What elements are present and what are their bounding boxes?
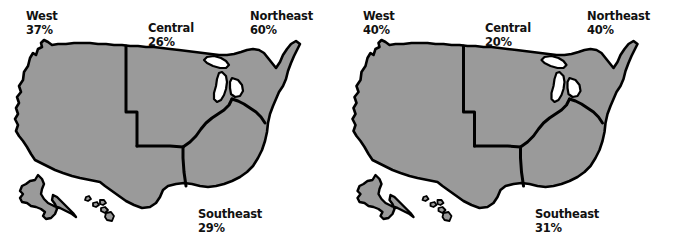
right-map-label-northeast-value: 40% <box>587 24 650 38</box>
left-map-label-central-region: Central <box>148 21 194 35</box>
right-map-label-northeast-region: Northeast <box>587 9 650 23</box>
right-map-label-central: Central 20% <box>485 22 531 49</box>
hawaii-island-5 <box>105 212 114 221</box>
left-map-label-northeast: Northeast 60% <box>250 10 313 37</box>
usa-mainland-shape <box>353 40 638 208</box>
left-map-panel: West 37% Central 26% Northeast 60% South… <box>0 0 337 244</box>
right-map-label-west-region: West <box>363 9 395 23</box>
hawaii-island-1 <box>423 196 429 201</box>
right-map-label-central-region: Central <box>485 21 531 35</box>
usa-mainland-group <box>15 40 300 208</box>
hawaii-island-3 <box>100 200 106 205</box>
hawaii-inset-group <box>423 196 452 221</box>
right-map-label-west-value: 40% <box>363 24 395 38</box>
left-map-label-west: West 37% <box>26 10 58 37</box>
left-map-label-west-value: 37% <box>26 24 58 38</box>
left-map-label-southeast-region: Southeast <box>198 207 262 221</box>
hawaii-island-1 <box>85 196 91 201</box>
right-map-panel: West 40% Central 20% Northeast 40% South… <box>337 0 675 244</box>
hawaii-island-5 <box>443 212 452 221</box>
hawaii-island-2 <box>431 202 437 207</box>
hawaii-inset-group <box>85 196 114 221</box>
two-map-comparison-figure: West 37% Central 26% Northeast 60% South… <box>0 0 675 244</box>
alaska-inset-group <box>20 175 76 219</box>
right-map-label-west: West 40% <box>363 10 395 37</box>
left-map-label-central: Central 26% <box>148 22 194 49</box>
left-map-label-southeast-value: 29% <box>198 222 262 236</box>
usa-mainland-group <box>353 40 638 208</box>
left-map-label-west-region: West <box>26 9 58 23</box>
left-map-label-northeast-region: Northeast <box>250 9 313 23</box>
right-map-label-southeast-value: 31% <box>535 222 599 236</box>
hawaii-island-2 <box>93 202 99 207</box>
hawaii-island-3 <box>438 200 444 205</box>
left-map-label-southeast: Southeast 29% <box>198 208 262 235</box>
alaska-shape <box>20 175 76 219</box>
right-map-label-southeast: Southeast 31% <box>535 208 599 235</box>
left-map-label-central-value: 26% <box>148 36 194 50</box>
alaska-shape <box>358 175 414 219</box>
right-map-label-northeast: Northeast 40% <box>587 10 650 37</box>
right-map-label-central-value: 20% <box>485 36 531 50</box>
usa-mainland-shape <box>15 40 300 208</box>
left-map-label-northeast-value: 60% <box>250 24 313 38</box>
alaska-inset-group <box>358 175 414 219</box>
right-map-label-southeast-region: Southeast <box>535 207 599 221</box>
